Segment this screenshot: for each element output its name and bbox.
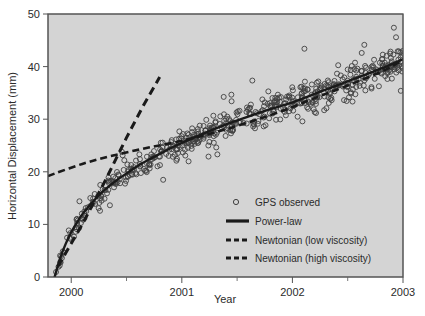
y-axis-title: Horizontal Displacement (mm): [6, 72, 18, 220]
x-tick-label: 2003: [391, 286, 415, 298]
figure-container: 01020304050 2000200120022003 Year Horizo…: [0, 0, 425, 316]
legend-label-power-law: Power-law: [255, 216, 302, 227]
x-tick-label: 2002: [280, 286, 304, 298]
y-tick-label: 20: [28, 166, 40, 178]
legend-label-newtonian-high-viscosity: Newtonian (high viscosity): [255, 253, 371, 264]
y-tick-label: 30: [28, 113, 40, 125]
horizontal-displacement-chart: 01020304050 2000200120022003 Year Horizo…: [0, 0, 425, 316]
x-tick-label: 2000: [59, 286, 83, 298]
legend-label-newtonian-low-viscosity: Newtonian (low viscosity): [255, 235, 367, 246]
y-tick-label: 50: [28, 8, 40, 20]
y-tick-label: 0: [34, 271, 40, 283]
y-tick-label: 10: [28, 218, 40, 230]
x-tick-label: 2001: [170, 286, 194, 298]
x-axis-title: Year: [214, 293, 237, 305]
y-tick-label: 40: [28, 61, 40, 73]
legend-label-gps-observed: GPS observed: [255, 197, 320, 208]
